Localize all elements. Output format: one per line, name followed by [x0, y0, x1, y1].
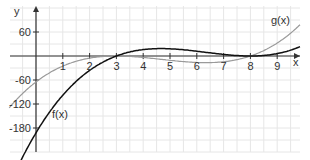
x-tick-labels: 123456789	[60, 60, 281, 72]
svg-text:1: 1	[60, 60, 66, 72]
svg-text:9: 9	[274, 60, 280, 72]
svg-text:5: 5	[167, 60, 173, 72]
f-label: f(x)	[52, 108, 68, 120]
g-curve	[9, 25, 300, 108]
function-plot: y x f(x) g(x) 123456789 60-60-120-180	[0, 0, 310, 160]
x-axis-label: x	[293, 56, 299, 68]
svg-text:-120: -120	[9, 98, 31, 110]
svg-text:4: 4	[140, 60, 146, 72]
y-axis-label: y	[14, 5, 20, 17]
svg-text:7: 7	[221, 60, 227, 72]
svg-text:-60: -60	[15, 74, 31, 86]
svg-text:2: 2	[87, 60, 93, 72]
svg-text:3: 3	[113, 60, 119, 72]
axes	[10, 6, 300, 152]
svg-text:-180: -180	[9, 122, 31, 134]
svg-text:60: 60	[19, 26, 31, 38]
g-label: g(x)	[271, 14, 290, 26]
grid	[10, 6, 300, 152]
svg-text:6: 6	[194, 60, 200, 72]
svg-text:8: 8	[247, 60, 253, 72]
